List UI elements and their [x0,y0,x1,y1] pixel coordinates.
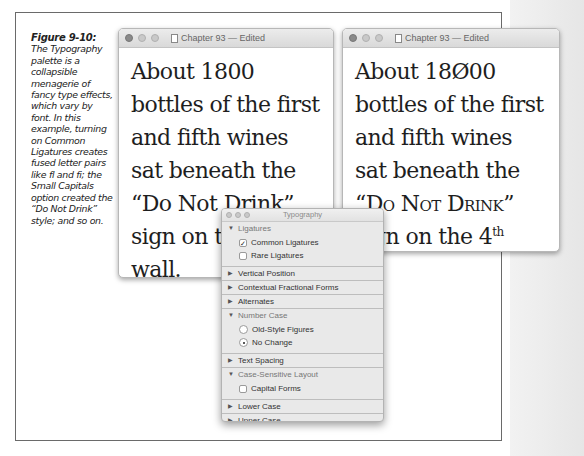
palette-titlebar: Typography [222,209,383,222]
palette-section: ▶Lower Case [222,400,383,414]
section-label: Vertical Position [238,267,295,280]
minimize-button[interactable] [235,212,241,218]
figure-label: Figure 9-10: [31,32,113,43]
option-label: Capital Forms [251,382,301,395]
window-titlebar: Chapter 93 — Edited [343,29,559,48]
disclosure-closed-icon[interactable]: ▶ [228,267,234,280]
disclosure-closed-icon[interactable]: ▶ [228,414,234,422]
section-label: Text Spacing [238,354,284,367]
figure-caption: Figure 9-10: The Typography palette is a… [31,32,113,226]
palette-section: ▼Ligatures✓Common LigaturesRare Ligature… [222,222,383,267]
section-header[interactable]: ▶Alternates [222,295,383,308]
caption-text: The Typography palette is a collapsible … [31,43,113,225]
section-label: Contextual Fractional Forms [238,281,338,294]
typography-palette: Typography ▼Ligatures✓Common LigaturesRa… [221,208,384,422]
palette-title: Typography [283,210,322,219]
section-header[interactable]: ▼Number Case [222,309,383,322]
window-title: Chapter 93 — Edited [405,29,489,47]
section-label: Upper Case [238,414,281,422]
section-body: Old-Style FiguresNo Change [222,322,383,353]
palette-section: ▼Number CaseOld-Style FiguresNo Change [222,309,383,354]
section-label: Case-Sensitive Layout [238,368,318,381]
section-header[interactable]: ▶Vertical Position [222,267,383,280]
zoom-button[interactable] [244,212,250,218]
option-label: Old-Style Figures [252,323,314,336]
close-button[interactable] [125,34,133,42]
palette-section: ▶Alternates [222,295,383,309]
document-icon [395,34,402,43]
small-caps-text: Do Not Drink [366,191,503,216]
option-row[interactable]: ✓Common Ligatures [222,236,383,249]
section-header[interactable]: ▶Contextual Fractional Forms [222,281,383,294]
checkbox[interactable] [239,385,247,393]
section-header[interactable]: ▶Upper Case [222,414,383,422]
palette-section: ▼Case-Sensitive LayoutCapital Forms [222,368,383,400]
document-icon [171,34,178,43]
option-label: Rare Ligatures [251,249,303,262]
section-body: ✓Common LigaturesRare Ligatures [222,235,383,266]
option-row[interactable]: Old-Style Figures [222,323,383,336]
zoom-button[interactable] [151,34,159,42]
minimize-button[interactable] [138,34,146,42]
section-header[interactable]: ▼Ligatures [222,222,383,235]
minimize-button[interactable] [362,34,370,42]
disclosure-closed-icon[interactable]: ▶ [228,281,234,294]
window-title: Chapter 93 — Edited [181,29,265,47]
section-label: Ligatures [238,222,271,235]
palette-section: ▶Upper Case [222,414,383,422]
palette-section: ▶Contextual Fractional Forms [222,281,383,295]
disclosure-closed-icon[interactable]: ▶ [228,295,234,308]
disclosure-closed-icon[interactable]: ▶ [228,400,234,413]
section-label: Number Case [238,309,287,322]
option-row[interactable]: No Change [222,336,383,349]
close-button[interactable] [226,212,232,218]
disclosure-open-icon[interactable]: ▼ [228,309,234,322]
close-button[interactable] [349,34,357,42]
disclosure-open-icon[interactable]: ▼ [228,222,234,235]
section-header[interactable]: ▶Text Spacing [222,354,383,367]
section-label: Lower Case [238,400,281,413]
option-row[interactable]: Capital Forms [222,382,383,395]
palette-section: ▶Text Spacing [222,354,383,368]
section-body: Capital Forms [222,381,383,399]
disclosure-closed-icon[interactable]: ▶ [228,354,234,367]
radio-button[interactable] [239,325,248,334]
disclosure-open-icon[interactable]: ▼ [228,368,234,381]
window-titlebar: Chapter 93 — Edited [119,29,333,48]
zoom-button[interactable] [375,34,383,42]
section-label: Alternates [238,295,274,308]
section-header[interactable]: ▼Case-Sensitive Layout [222,368,383,381]
checkbox[interactable] [239,252,247,260]
option-label: No Change [252,336,292,349]
radio-button[interactable] [239,338,248,347]
palette-section: ▶Vertical Position [222,267,383,281]
checkbox[interactable]: ✓ [239,239,247,247]
option-label: Common Ligatures [251,236,319,249]
section-header[interactable]: ▶Lower Case [222,400,383,413]
option-row[interactable]: Rare Ligatures [222,249,383,262]
superscript-ordinal: th [492,225,503,239]
